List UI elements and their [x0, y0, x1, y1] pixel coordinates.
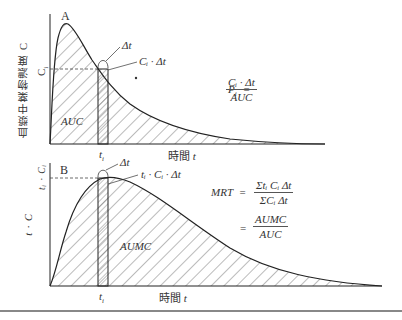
- ti-tick-label-b: ti: [99, 291, 104, 305]
- panel-b-x-axis-label: 時間 t: [159, 293, 187, 304]
- aumc-label: AUMC: [120, 241, 151, 252]
- dot: [135, 77, 137, 79]
- mrt-formula-fraction-2: AUMC AUC: [253, 213, 288, 240]
- pk-diagram: [0, 0, 402, 320]
- mrt-formula-equals-2: =: [240, 223, 246, 234]
- auc-label: AUC: [61, 116, 83, 127]
- panel-a: [50, 14, 325, 144]
- delta-arc: [98, 61, 108, 69]
- ci-delta-label: Cᵢ · Δt: [139, 56, 166, 67]
- delta-leader: [106, 47, 120, 61]
- panel-b-letter: B: [60, 164, 68, 176]
- panel-a-letter: A: [61, 10, 70, 22]
- delta-t-label-b: Δt: [120, 157, 130, 168]
- panel-a-x-axis-label: 時間 t: [168, 151, 196, 162]
- mrt-formula-lhs: MRT =: [211, 187, 246, 198]
- delta-arc: [98, 170, 108, 177]
- delta-leader: [106, 164, 118, 170]
- panel-b: [50, 163, 382, 286]
- auc-area: [50, 24, 325, 144]
- ti-ci-delta-label: tᵢ · Cᵢ · Δt: [141, 169, 181, 180]
- ci-tick-label: Ci: [36, 67, 50, 76]
- bottom-separator: [0, 310, 402, 312]
- peak-tick-label: tᵢ · Cᵢ: [38, 164, 48, 190]
- mrt-formula-fraction-1: Σtᵢ Cᵢ Δt ΣCᵢ Δt: [254, 179, 293, 206]
- panel-b-y-axis-label: t · C: [24, 213, 35, 236]
- ti-ci-delta-rect: [98, 178, 108, 286]
- pi-formula-fraction: Cᵢ · Δt AUC: [226, 76, 257, 103]
- ti-tick-label: ti: [99, 149, 104, 163]
- rect-leader: [108, 62, 137, 70]
- ci-delta-rect: [98, 69, 108, 144]
- delta-t-label: Δt: [122, 40, 132, 51]
- panel-a-y-axis-label: 血漿中薬物濃度 C: [19, 42, 30, 138]
